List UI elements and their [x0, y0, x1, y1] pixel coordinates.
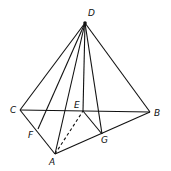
tetrahedron-figure: D C B E A F G — [0, 0, 171, 171]
edge-DE — [83, 23, 85, 111]
edge-CA — [20, 110, 55, 154]
point-label-A: A — [48, 157, 55, 167]
point-label-E: E — [74, 100, 80, 110]
geometry-diagram: D C B E A F G — [0, 0, 171, 171]
edge-DB — [85, 23, 150, 112]
apex-point-D — [83, 21, 87, 25]
point-label-B: B — [154, 108, 160, 118]
point-label-C: C — [10, 105, 17, 115]
point-label-D: D — [88, 8, 95, 18]
point-label-F: F — [28, 130, 34, 140]
edge-AB — [55, 112, 150, 154]
edge-CB — [20, 110, 150, 112]
point-label-G: G — [101, 135, 108, 145]
edges-group — [20, 23, 150, 154]
